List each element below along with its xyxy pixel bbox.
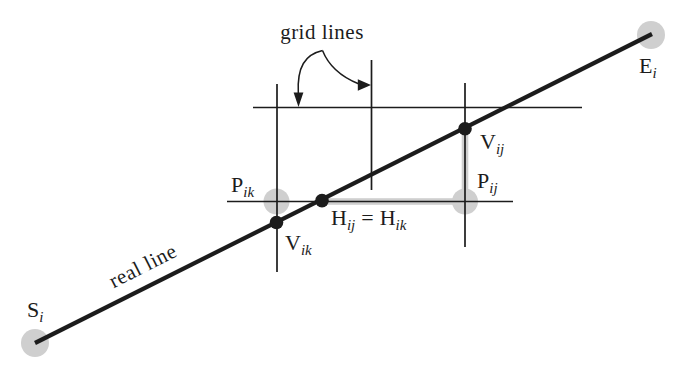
h-equation-label: Hij=Hik: [331, 205, 407, 233]
diagram-canvas: grid lines real line Si Ei Pik Pij Vik V…: [0, 0, 686, 374]
intersection-dot-v-ij: [458, 122, 472, 136]
intersection-dot-v-ik: [270, 216, 284, 230]
grid-lines-label: grid lines: [280, 20, 364, 44]
figure-container: grid lines real line Si Ei Pik Pij Vik V…: [0, 0, 686, 374]
intersection-dot-h: [315, 194, 329, 208]
